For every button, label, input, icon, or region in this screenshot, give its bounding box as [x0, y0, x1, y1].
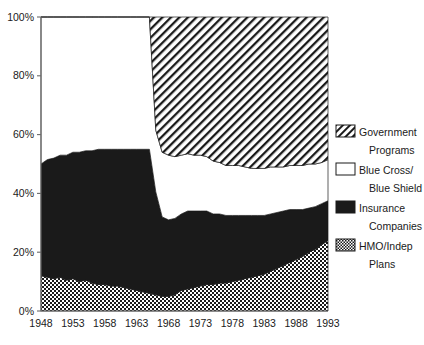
legend-item: HMO/IndepPlans — [336, 239, 413, 270]
legend-item: Blue Cross/Blue Shield — [336, 163, 422, 194]
x-tick-label: 1963 — [125, 317, 149, 329]
legend-label-line1: Insurance — [359, 202, 405, 214]
x-tick-label: 1958 — [93, 317, 117, 329]
legend-item: InsuranceCompanies — [336, 201, 422, 232]
legend-label-line2: Companies — [369, 220, 422, 232]
legend-label-line1: Government — [359, 126, 417, 138]
plot-areas — [41, 17, 328, 311]
y-tick-label: 80% — [13, 69, 34, 81]
legend-swatch — [336, 125, 355, 137]
y-axis-tick-labels: 0%20%40%60%80%100% — [7, 11, 41, 317]
chart-legend: GovernmentProgramsBlue Cross/Blue Shield… — [336, 125, 422, 270]
y-tick-label: 100% — [7, 11, 34, 23]
y-tick-label: 40% — [13, 187, 34, 199]
x-tick-label: 1953 — [61, 317, 85, 329]
legend-item: GovernmentPrograms — [336, 125, 417, 156]
x-tick-label: 1983 — [253, 317, 277, 329]
legend-swatch — [336, 239, 355, 251]
y-tick-label: 20% — [13, 246, 34, 258]
legend-label-line2: Plans — [369, 258, 395, 270]
stacked-area-chart: 1948195319581963196819731978198319881993… — [0, 0, 424, 345]
x-tick-label: 1978 — [221, 317, 245, 329]
x-tick-label: 1988 — [284, 317, 308, 329]
x-tick-label: 1973 — [189, 317, 213, 329]
legend-label-line1: Blue Cross/ — [359, 164, 413, 176]
y-tick-label: 60% — [13, 128, 34, 140]
legend-swatch — [336, 201, 355, 213]
x-axis-tick-labels: 1948195319581963196819731978198319881993 — [29, 317, 340, 329]
legend-label-line2: Programs — [369, 144, 415, 156]
legend-label-line1: HMO/Indep — [359, 240, 413, 252]
legend-label-line2: Blue Shield — [369, 182, 422, 194]
chart-canvas: 1948195319581963196819731978198319881993… — [0, 0, 424, 345]
legend-swatch — [336, 163, 355, 175]
x-tick-label: 1968 — [157, 317, 181, 329]
x-tick-label: 1948 — [29, 317, 53, 329]
x-tick-label: 1993 — [316, 317, 340, 329]
y-tick-label: 0% — [19, 305, 34, 317]
